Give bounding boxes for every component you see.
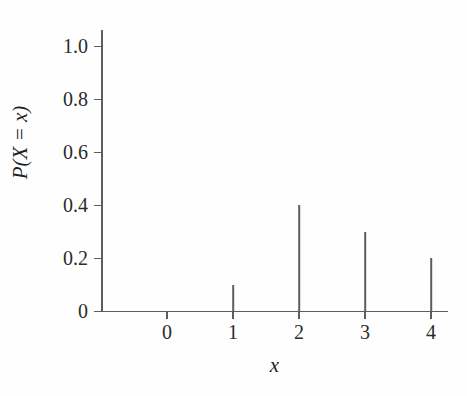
stem-bar	[430, 258, 432, 311]
x-axis-title: x	[101, 353, 448, 378]
x-tick-label: 3	[360, 322, 370, 342]
y-axis-line	[101, 30, 103, 312]
x-tick-mark	[166, 311, 167, 319]
x-tick-label: 1	[228, 322, 238, 342]
x-tick-mark	[364, 311, 365, 319]
stem-bar	[364, 232, 366, 312]
x-tick-mark	[430, 311, 431, 319]
stem-bar	[298, 205, 300, 311]
x-axis-line	[101, 311, 448, 313]
pmf-stem-chart: 1.00.80.60.40.20 01234 P(X = x) x	[0, 0, 467, 396]
y-tick-label: 0.2	[0, 248, 101, 268]
x-tick-mark	[232, 311, 233, 319]
x-tick-mark	[298, 311, 299, 319]
x-tick-label: 4	[426, 322, 436, 342]
x-tick-label: 2	[294, 322, 304, 342]
stem-bar	[232, 285, 234, 312]
x-tick-label: 0	[162, 322, 172, 342]
y-tick-label: 0	[0, 301, 101, 321]
y-axis-title: P(X = x)	[8, 78, 33, 208]
y-tick-label: 1.0	[0, 36, 101, 56]
